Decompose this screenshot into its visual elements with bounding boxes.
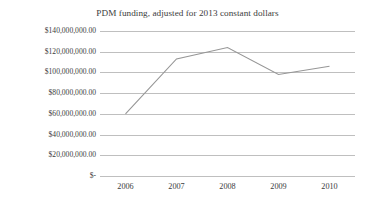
y-axis-tick-label: $140,000,000.00 — [4, 27, 96, 35]
gridline — [100, 176, 355, 177]
x-axis-tick-label: 2007 — [149, 182, 205, 192]
series-line-pdm-funding — [100, 31, 355, 176]
x-axis-tick-label: 2008 — [200, 182, 256, 192]
y-axis-tick-label: $60,000,000.00 — [4, 110, 96, 118]
x-axis-tick-label: 2006 — [98, 182, 154, 192]
series-polyline — [126, 48, 330, 114]
y-axis-tick-label: $120,000,000.00 — [4, 48, 96, 56]
x-axis-tick-label: 2010 — [302, 182, 358, 192]
y-axis-tick-label: $100,000,000.00 — [4, 68, 96, 76]
line-chart: PDM funding, adjusted for 2013 constant … — [0, 0, 375, 208]
x-axis-tick-labels: 20062007200820092010 — [100, 182, 355, 196]
y-axis-tick-label: $80,000,000.00 — [4, 89, 96, 97]
chart-title: PDM funding, adjusted for 2013 constant … — [0, 8, 375, 18]
plot-area — [100, 31, 355, 176]
y-axis-tick-label: $40,000,000.00 — [4, 131, 96, 139]
y-axis-tick-label: $- — [4, 172, 96, 180]
x-axis-tick-label: 2009 — [251, 182, 307, 192]
y-axis-tick-label: $20,000,000.00 — [4, 151, 96, 159]
